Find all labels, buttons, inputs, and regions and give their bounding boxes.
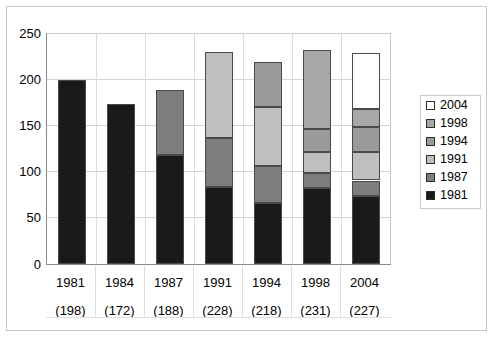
bar-segment-1987-1987[interactable] (156, 90, 184, 156)
y-tick-label-200: 200 (1, 73, 41, 86)
x-tick-label: 1987 (144, 276, 193, 289)
y-tick-label-50: 50 (1, 211, 41, 224)
bar-segment-2004-1998[interactable] (352, 109, 380, 127)
plot-area (46, 33, 391, 265)
bar-segment-2004-1981[interactable] (352, 196, 380, 264)
bar-2004[interactable] (352, 53, 380, 264)
x-total-label: (172) (95, 304, 144, 317)
legend-label: 1994 (440, 135, 468, 148)
bar-segment-1981-1981[interactable] (58, 80, 86, 264)
bar-1998[interactable] (303, 50, 331, 264)
x-category-1998: 1998 (231) (291, 266, 340, 317)
bar-segment-1998-1991[interactable] (303, 152, 331, 173)
x-total-label: (218) (242, 304, 291, 317)
legend-label: 1981 (440, 189, 468, 202)
legend-swatch-icon (426, 191, 435, 200)
legend-item-1994[interactable]: 1994 (426, 132, 480, 150)
bar-segment-1998-1987[interactable] (303, 173, 331, 188)
y-tick-label-150: 150 (1, 119, 41, 132)
bar-segment-1994-1994[interactable] (254, 62, 282, 107)
column-separator (96, 34, 97, 264)
bar-segment-1994-1991[interactable] (254, 107, 282, 165)
legend-swatch-icon (426, 119, 435, 128)
x-category-1984: 1984 (172) (95, 266, 144, 317)
x-category-1987: 1987 (188) (144, 266, 193, 317)
legend-item-1981[interactable]: 1981 (426, 186, 480, 204)
x-tick-label: 2004 (340, 276, 389, 289)
bar-segment-2004-1991[interactable] (352, 152, 380, 181)
bar-segment-1998-1994[interactable] (303, 129, 331, 151)
x-category-2004: 2004 (227) (340, 266, 389, 317)
bar-segment-2004-1994[interactable] (352, 127, 380, 152)
column-separator (145, 34, 146, 264)
legend-item-1991[interactable]: 1991 (426, 150, 480, 168)
x-tick-label: 1998 (291, 276, 340, 289)
x-tick-label: 1981 (46, 276, 95, 289)
x-total-label: (188) (144, 304, 193, 317)
legend: 2004 1998 1994 1991 1987 1981 (420, 95, 481, 209)
x-tick-label: 1991 (193, 276, 242, 289)
x-tick-label: 1994 (242, 276, 291, 289)
column-separator (292, 34, 293, 264)
chart-figure: 250 200 150 100 50 0 1981 (198) 1 (0, 0, 494, 338)
column-separator (194, 34, 195, 264)
x-tick-label: 1984 (95, 276, 144, 289)
column-separator (341, 34, 342, 264)
bar-1994[interactable] (254, 62, 282, 264)
bar-segment-1994-1987[interactable] (254, 166, 282, 203)
y-tick-label-250: 250 (1, 27, 41, 40)
bar-segment-1984-1981[interactable] (107, 104, 135, 264)
bar-segment-2004-1987[interactable] (352, 181, 380, 197)
legend-item-1998[interactable]: 1998 (426, 114, 480, 132)
bar-segment-1987-1981[interactable] (156, 155, 184, 264)
bar-segment-1991-1981[interactable] (205, 187, 233, 264)
bar-1991[interactable] (205, 52, 233, 264)
x-category-1994: 1994 (218) (242, 266, 291, 317)
x-category-1991: 1991 (228) (193, 266, 242, 317)
legend-label: 1991 (440, 153, 468, 166)
x-total-label: (231) (291, 304, 340, 317)
bar-1981[interactable] (58, 80, 86, 264)
bar-segment-1998-1981[interactable] (303, 188, 331, 264)
y-tick-label-0: 0 (1, 258, 41, 271)
legend-label: 2004 (440, 99, 468, 112)
x-total-label: (198) (46, 304, 95, 317)
x-axis: 1981 (198) 1984 (172) 1987 (188) 1991 (2… (46, 266, 391, 318)
x-axis-underline (46, 317, 391, 318)
bar-segment-1991-1987[interactable] (205, 138, 233, 187)
legend-label: 1998 (440, 117, 468, 130)
legend-item-2004[interactable]: 2004 (426, 96, 480, 114)
x-total-label: (228) (193, 304, 242, 317)
legend-swatch-icon (426, 173, 435, 182)
bar-1984[interactable] (107, 104, 135, 264)
column-separator (243, 34, 244, 264)
bar-segment-2004-2004[interactable] (352, 53, 380, 109)
bar-segment-1991-1991[interactable] (205, 52, 233, 137)
x-category-1981: 1981 (198) (46, 266, 95, 317)
legend-swatch-icon (426, 155, 435, 164)
bar-segment-1998-1998[interactable] (303, 50, 331, 130)
legend-swatch-icon (426, 101, 435, 110)
x-total-label: (227) (340, 304, 389, 317)
y-axis: 250 200 150 100 50 0 (0, 0, 41, 338)
bar-1987[interactable] (156, 90, 184, 264)
legend-item-1987[interactable]: 1987 (426, 168, 480, 186)
legend-swatch-icon (426, 137, 435, 146)
legend-label: 1987 (440, 171, 468, 184)
y-tick-label-100: 100 (1, 165, 41, 178)
bar-segment-1994-1981[interactable] (254, 203, 282, 264)
